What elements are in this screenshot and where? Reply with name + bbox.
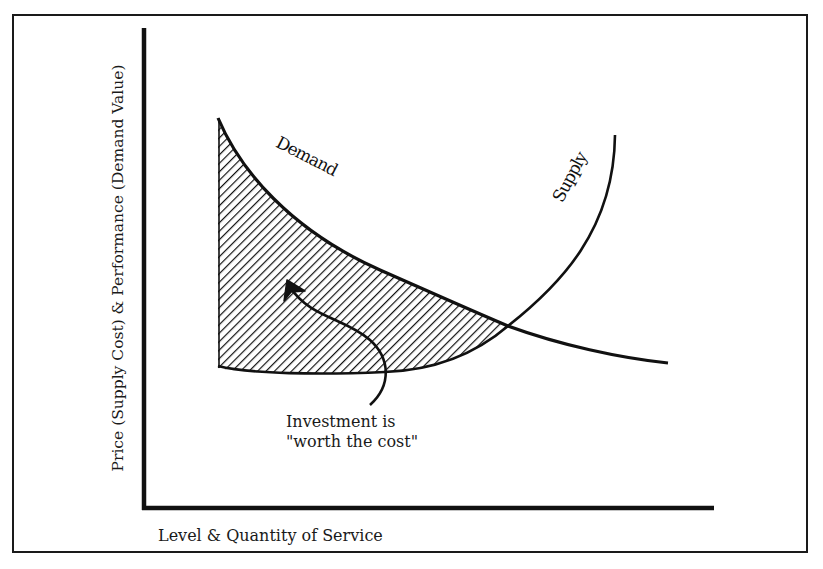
x-axis-label: Level & Quantity of Service xyxy=(158,526,383,545)
y-axis-label: Price (Supply Cost) & Performance (Deman… xyxy=(109,65,127,472)
investment-annotation: Investment is "worth the cost" xyxy=(286,412,418,452)
annotation-line-1: Investment is xyxy=(286,412,418,432)
annotation-line-2: "worth the cost" xyxy=(286,432,418,452)
